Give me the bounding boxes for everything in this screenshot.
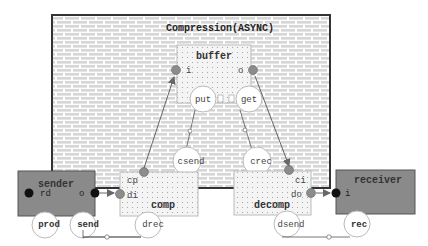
csend-label: csend xyxy=(177,157,204,167)
decomp-label: decomp xyxy=(254,200,290,211)
receiver-port-i-label: i xyxy=(345,189,350,199)
sender-port-rd-label: rd xyxy=(40,189,51,199)
receiver-component[interactable]: receiver i xyxy=(332,170,416,214)
comp-port-di-icon[interactable] xyxy=(116,190,125,199)
get-label: get xyxy=(241,95,257,105)
diagram-canvas: Compression(ASYNC) buffer i o put get cs… xyxy=(0,0,428,246)
send-label: send xyxy=(77,220,99,230)
comp-port-cp-label: cp xyxy=(127,176,138,186)
crec-label: crec xyxy=(250,157,272,167)
comp-port-di-label: di xyxy=(127,191,138,201)
rec-label: rec xyxy=(351,220,367,230)
put-get-connector-icon xyxy=(218,95,223,102)
receiver-port-i-icon[interactable] xyxy=(332,189,341,198)
get-service[interactable]: get xyxy=(236,86,262,112)
drec-label: drec xyxy=(142,220,164,230)
rec-service[interactable]: rec xyxy=(344,211,370,237)
buffer-port-in-label: i xyxy=(186,66,191,76)
decomp-component[interactable]: ci do decomp xyxy=(234,166,316,216)
decomp-port-ci-label: ci xyxy=(295,176,306,186)
put-get-connector-icon xyxy=(229,95,234,102)
sender-port-o-label: o xyxy=(79,189,84,199)
buffer-label: buffer xyxy=(196,51,232,62)
comp-port-cp-icon[interactable] xyxy=(140,168,149,177)
link-junction-icon xyxy=(243,128,247,132)
decomp-port-ci-icon[interactable] xyxy=(285,166,294,175)
sender-port-o-icon[interactable] xyxy=(91,189,100,198)
dsend-label: dsend xyxy=(277,220,304,230)
comp-label: comp xyxy=(151,200,175,211)
buffer-port-out-icon[interactable] xyxy=(249,66,258,75)
buffer-port-in-icon[interactable] xyxy=(172,66,181,75)
decomp-port-do-label: do xyxy=(291,190,302,200)
buffer-port-out-label: o xyxy=(238,66,243,76)
sender-port-rd-icon[interactable] xyxy=(25,189,34,198)
link-junction-icon xyxy=(327,235,331,239)
comp-component[interactable]: cp di comp xyxy=(116,168,199,217)
link-junction-icon xyxy=(105,235,109,239)
prod-label: prod xyxy=(38,220,60,230)
receiver-label: receiver xyxy=(354,175,402,186)
put-service[interactable]: put xyxy=(190,86,216,112)
put-label: put xyxy=(195,95,211,105)
compression-title: Compression(ASYNC) xyxy=(166,23,274,34)
decomp-port-do-icon[interactable] xyxy=(307,189,316,198)
sender-component[interactable]: sender rd o xyxy=(18,171,100,216)
link-junction-icon xyxy=(188,129,192,133)
